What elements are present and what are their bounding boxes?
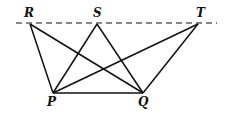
segments-group <box>30 24 198 93</box>
label-S: S <box>93 6 102 20</box>
segment-RP <box>30 24 53 93</box>
segment-TQ <box>143 24 198 93</box>
label-P: P <box>46 95 57 109</box>
geometry-diagram: R S T P Q <box>0 0 225 115</box>
label-Q: Q <box>138 95 149 109</box>
label-T: T <box>196 6 206 20</box>
label-R: R <box>23 6 34 20</box>
segment-SQ <box>97 24 143 93</box>
